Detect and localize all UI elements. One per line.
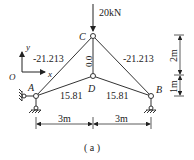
node-b [149,94,154,99]
figure-caption: ( a ) [84,142,100,154]
horizontal-dimensions [36,117,151,129]
axis-y-label: y [25,42,30,52]
axis-origin-label: O [9,72,16,82]
node-d [91,74,96,79]
node-c [91,34,96,39]
node-a [34,94,39,99]
node-label-c: C [79,31,86,42]
force-cd: 0.0 [84,55,94,67]
dimension-h-1: 3m [58,113,71,124]
dimension-h-2: 3m [115,113,128,124]
node-label-b: B [156,84,162,95]
force-ad: 15.81 [60,90,83,101]
truss-diagram: 20kN y x O -21.213 -21.213 0.0 15.81 15.… [0,0,194,160]
dimension-v-2: 1m [168,80,179,93]
axis-x-label: x [47,69,52,79]
force-ac: -21.213 [33,53,64,64]
member-cb [93,36,151,96]
force-cb: -21.213 [123,53,154,64]
load-label: 20kN [99,7,121,18]
node-label-d: D [87,83,96,94]
node-label-a: A [27,82,35,93]
dimension-v-1: 2m [168,49,179,62]
force-db: 15.81 [106,90,129,101]
